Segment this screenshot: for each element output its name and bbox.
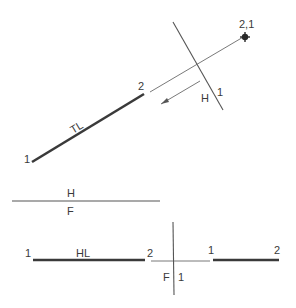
auxiliary-view: 2,1 H 1 2 1 TL — [24, 18, 254, 165]
tl-end-label-2: 2 — [138, 80, 144, 92]
true-length-line — [32, 94, 144, 162]
fold-label-h: H — [201, 92, 209, 104]
side-end-label-1: 1 — [208, 244, 214, 256]
true-length-label: TL — [68, 119, 85, 136]
projection-line — [150, 36, 245, 92]
point-view-marker — [240, 32, 250, 42]
hl-label: HL — [76, 247, 90, 259]
fold-line-f1 — [173, 222, 174, 295]
fold-line-h1 — [173, 22, 223, 110]
fold-hf-bottom-label: F — [67, 205, 74, 217]
fold-line-f1-group: F 1 — [163, 222, 184, 295]
fold-f1-right-label: 1 — [178, 271, 184, 283]
descriptive-geometry-drawing: 2,1 H 1 2 1 TL H F 1 HL 2 F 1 1 — [0, 0, 296, 308]
side-view: 1 2 — [208, 244, 280, 260]
front-view: 1 HL 2 — [25, 247, 210, 261]
fold-label-1: 1 — [217, 86, 223, 98]
sight-direction-arrow — [161, 81, 200, 104]
fold-f1-left-label: F — [163, 271, 170, 283]
fold-hf-top-label: H — [67, 187, 75, 199]
hl-end-label-2: 2 — [147, 247, 153, 259]
point-view-label: 2,1 — [239, 18, 254, 30]
hl-end-label-1: 1 — [25, 247, 31, 259]
fold-line-hf-group: H F — [12, 187, 160, 217]
tl-end-label-1: 1 — [24, 153, 30, 165]
arrowhead-icon — [161, 98, 169, 104]
side-end-label-2: 2 — [274, 244, 280, 256]
